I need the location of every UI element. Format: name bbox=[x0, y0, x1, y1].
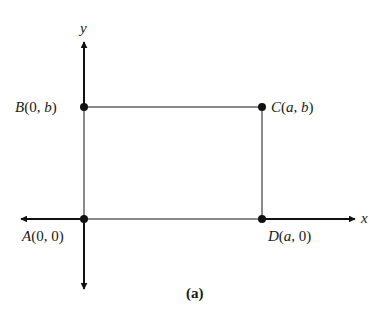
point-c bbox=[258, 103, 266, 111]
point-b-label: B(0, b) bbox=[15, 99, 57, 116]
point-a bbox=[80, 215, 88, 223]
point-c-label: C(a, b) bbox=[271, 99, 314, 116]
x-axis-label: x bbox=[360, 210, 368, 226]
point-a-label: A(0, 0) bbox=[21, 228, 64, 245]
point-b bbox=[80, 103, 88, 111]
points bbox=[80, 103, 266, 223]
rectangle bbox=[84, 107, 262, 219]
figure-caption: (a) bbox=[186, 285, 204, 302]
y-axis-label: y bbox=[78, 20, 87, 36]
point-d bbox=[258, 215, 266, 223]
axes bbox=[21, 42, 355, 289]
point-d-label: D(a, 0) bbox=[267, 228, 311, 245]
coordinate-diagram: y x B(0, b) C(a, b) A(0, 0) D(a, 0) (a) bbox=[0, 0, 381, 312]
